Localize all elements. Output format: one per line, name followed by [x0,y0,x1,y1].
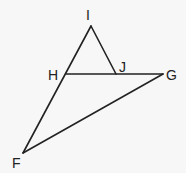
label-point-f: F [12,155,21,171]
geometry-diagram: I H J G F [0,0,186,173]
label-point-g: G [166,67,177,83]
label-point-i: I [86,7,90,23]
diagram-svg: I H J G F [0,0,186,173]
label-point-h: H [48,67,58,83]
label-point-j: J [119,59,126,75]
segment-i-j [91,26,116,74]
